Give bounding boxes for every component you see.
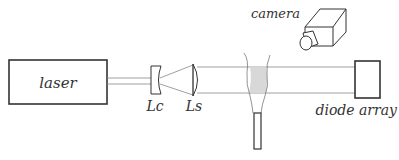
- lc-label: Lc: [145, 98, 163, 114]
- burner: [254, 113, 261, 149]
- narrow-beam: [107, 78, 151, 84]
- camera: camera: [251, 6, 346, 50]
- diverging-beam: [160, 65, 193, 95]
- cylindrical-lens: Lc: [145, 66, 163, 114]
- spherical-lens: Ls: [185, 64, 202, 114]
- diode-array-label: diode array: [315, 102, 398, 118]
- camera-label: camera: [251, 6, 300, 21]
- flame: [244, 53, 270, 113]
- laser: laser: [9, 60, 107, 104]
- diode-array: diode array: [315, 61, 398, 118]
- expanded-beam: [197, 67, 355, 93]
- optical-setup-diagram: laser Lc Ls camera: [0, 0, 399, 160]
- laser-label: laser: [39, 74, 77, 92]
- ls-label: Ls: [185, 98, 202, 114]
